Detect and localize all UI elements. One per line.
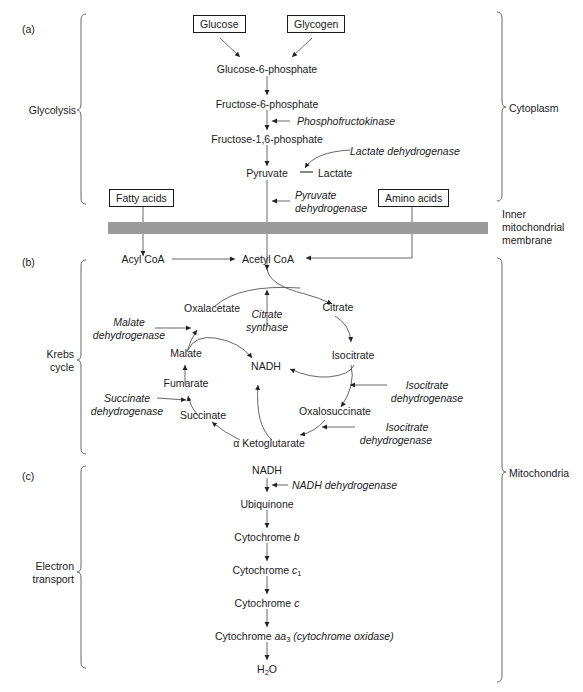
cytoplasm-bracket (497, 12, 506, 201)
cytochrome-aa3: Cytochrome aa3 (cytochrome oxidase) (215, 630, 394, 646)
malate: Malate (170, 347, 202, 359)
glucose-box: Glucose (193, 15, 246, 33)
succinate: Succinate (180, 409, 226, 421)
acetyl-coa: Acetyl CoA (242, 253, 294, 265)
glucose-6-phosphate: Glucose-6-phosphate (217, 63, 317, 75)
water-h: H (257, 663, 265, 675)
cytochrome-b-prefix: Cytochrome (234, 531, 294, 543)
phosphofructokinase-label: Phosphofructokinase (297, 115, 395, 127)
oxalacetate: Oxalacetate (184, 302, 240, 314)
amino-acids-box: Amino acids (378, 189, 449, 207)
oxalosuccinate: Oxalosuccinate (299, 405, 371, 417)
malate-dehydrogenase-label-1: Malate (113, 316, 145, 328)
fatty-acids-box: Fatty acids (109, 189, 174, 207)
succinate-dehydrogenase-label-2: dehydrogenase (91, 405, 163, 417)
glycogen-box: Glycogen (287, 15, 345, 33)
section-a-label: (a) (22, 23, 35, 35)
electron-transport-bracket (77, 466, 86, 668)
fumarate: Fumarate (164, 377, 209, 389)
cytochrome-aa3-letters: aa (275, 630, 287, 642)
cytochrome-c1-prefix: Cytochrome (233, 564, 293, 576)
krebs-label-2: cycle (0, 361, 74, 373)
water-o: O (269, 663, 277, 675)
water: H2O (257, 663, 277, 679)
section-b-label: (b) (22, 256, 35, 268)
cytochrome-c: Cytochrome c (235, 597, 300, 609)
membrane-label-3: membrane (502, 234, 552, 246)
mitochondria-label: Mitochondria (509, 467, 569, 479)
succinate-dehydrogenase-label-1: Succinate (104, 392, 150, 404)
ubiquinone: Ubiquinone (240, 498, 293, 510)
membrane-label-2: mitochondrial (502, 221, 564, 233)
acyl-coa: Acyl CoA (121, 253, 164, 265)
pyruvate-dehydrogenase-label-2: dehydrogenase (295, 202, 367, 214)
isocitrate-dehydrogenase-2-label-1: Isocitrate (386, 421, 429, 433)
cytochrome-c-prefix: Cytochrome (235, 597, 295, 609)
cytochrome-aa3-prefix: Cytochrome (215, 630, 275, 642)
citrate-synthase-label-2: synthase (246, 321, 288, 333)
glycolysis-bracket (77, 14, 86, 204)
isocitrate-dehydrogenase-1-label-1: Isocitrate (406, 379, 449, 391)
electron-transport-label-2: transport (0, 573, 74, 585)
fructose-16-phosphate: Fructose-1,6-phosphate (211, 133, 322, 145)
isocitrate: Isocitrate (332, 349, 375, 361)
mitochondria-bracket (497, 258, 506, 682)
membrane-label-1: Inner (502, 208, 526, 220)
citrate: Citrate (323, 301, 354, 313)
malate-dehydrogenase-label-2: dehydrogenase (93, 329, 165, 341)
cytochrome-b-letter: b (294, 531, 300, 543)
glycolysis-label: Glycolysis (0, 104, 76, 116)
nadh-et: NADH (252, 464, 282, 476)
nadh-krebs: NADH (251, 360, 281, 372)
inner-membrane-bar (108, 222, 488, 234)
cytochrome-b: Cytochrome b (234, 531, 299, 543)
fructose-6-phosphate: Fructose-6-phosphate (216, 98, 319, 110)
citrate-synthase-label-1: Citrate (252, 308, 283, 320)
cytochrome-oxidase-label: (cytochrome oxidase) (290, 630, 393, 642)
pyruvate: Pyruvate (246, 167, 287, 179)
cytochrome-c1-subscript: 1 (297, 569, 301, 578)
electron-transport-label-1: Electron (0, 560, 74, 572)
isocitrate-dehydrogenase-2-label-2: dehydrogenase (360, 434, 432, 446)
krebs-label-1: Krebs (0, 348, 74, 360)
cytoplasm-label: Cytoplasm (509, 102, 559, 114)
lactate: Lactate (318, 167, 352, 179)
krebs-bracket (77, 260, 86, 454)
nadh-dehydrogenase-label: NADH dehydrogenase (292, 479, 397, 491)
isocitrate-dehydrogenase-1-label-2: dehydrogenase (391, 392, 463, 404)
cytochrome-c-letter: c (294, 597, 299, 609)
lactate-dehydrogenase-label: Lactate dehydrogenase (350, 145, 460, 157)
alpha-ketoglutarate: α Ketoglutarate (233, 437, 304, 449)
pyruvate-dehydrogenase-label-1: Pyruvate (295, 189, 336, 201)
section-c-label: (c) (22, 470, 34, 482)
cytochrome-c1: Cytochrome c1 (233, 564, 302, 580)
